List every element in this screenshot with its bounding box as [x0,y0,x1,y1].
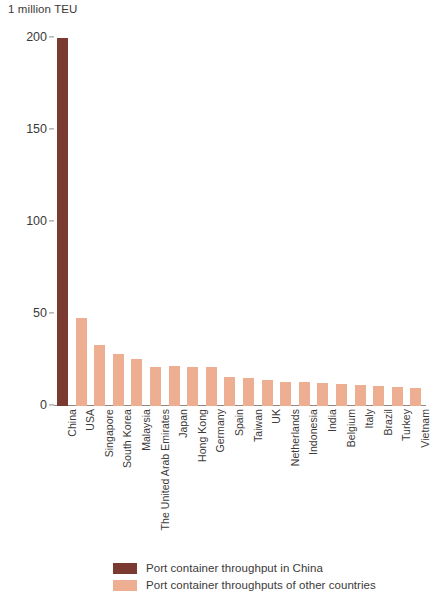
bar-italy [355,385,366,406]
bar-malaysia [131,359,142,406]
x-axis-label-china: China [67,409,78,437]
y-axis-tick-label: 150 [26,122,47,136]
y-axis-tick-label: 200 [26,30,47,44]
x-axis-label-italy: Italy [364,409,375,429]
bar-the-united-arab-emirates [150,367,161,406]
bar-singapore [94,345,105,406]
legend-label: Port container throughputs of other coun… [146,579,376,591]
legend-label: Port container throughput in China [146,562,323,574]
chart-legend: Port container throughput in ChinaPort c… [113,561,423,595]
x-axis-labels: ChinaUSASingaporeSouth KoreaMalaysiaThe … [54,409,426,554]
bar-uk [262,380,273,406]
y-axis: 050100150200 [0,0,54,611]
bar-indonesia [299,382,310,406]
bar-brazil [373,386,384,406]
bar-netherlands [280,382,291,406]
x-axis-label-netherlands: Netherlands [290,409,301,466]
bar-taiwan [243,378,254,406]
x-axis-label-the-united-arab-emirates: The United Arab Emirates [160,409,171,530]
legend-item: Port container throughputs of other coun… [113,578,423,592]
bar-china [57,38,68,406]
bar-vietnam [410,388,421,406]
bar-turkey [392,387,403,406]
legend-item: Port container throughput in China [113,561,423,575]
x-axis-label-japan: Japan [178,409,189,438]
bar-belgium [336,384,347,406]
x-axis-label-singapore: Singapore [104,409,115,457]
legend-swatch-icon [113,580,137,591]
bar-south-korea [113,354,124,406]
bars-container [54,0,426,406]
x-axis-label-uk: UK [271,409,282,424]
y-axis-tick-label: 50 [33,306,47,320]
x-axis-label-turkey: Turkey [401,409,412,441]
x-axis-label-germany: Germany [215,409,226,453]
x-axis-label-indonesia: Indonesia [308,409,319,455]
port-throughput-bar-chart: 1 million TEU 050100150200 ChinaUSASinga… [0,0,431,611]
bar-japan [169,366,180,406]
x-axis-label-hong-kong: Hong Kong [197,409,208,462]
x-axis-label-belgium: Belgium [346,409,357,447]
bar-hong-kong [187,367,198,406]
x-axis-label-brazil: Brazil [383,409,394,436]
bar-germany [206,367,217,406]
legend-swatch-icon [113,563,137,574]
x-axis-label-malaysia: Malaysia [141,409,152,451]
bar-usa [76,318,87,406]
x-axis-label-vietnam: Vietnam [420,409,431,448]
x-axis-label-taiwan: Taiwan [253,409,264,442]
bar-india [317,383,328,406]
y-axis-tick-label: 0 [40,398,47,412]
x-axis-label-usa: USA [85,409,96,431]
bar-spain [224,377,235,406]
x-axis-label-spain: Spain [234,409,245,436]
x-axis-label-south-korea: South Korea [122,409,133,468]
x-axis-label-india: India [327,409,338,432]
y-axis-tick-label: 100 [26,214,47,228]
